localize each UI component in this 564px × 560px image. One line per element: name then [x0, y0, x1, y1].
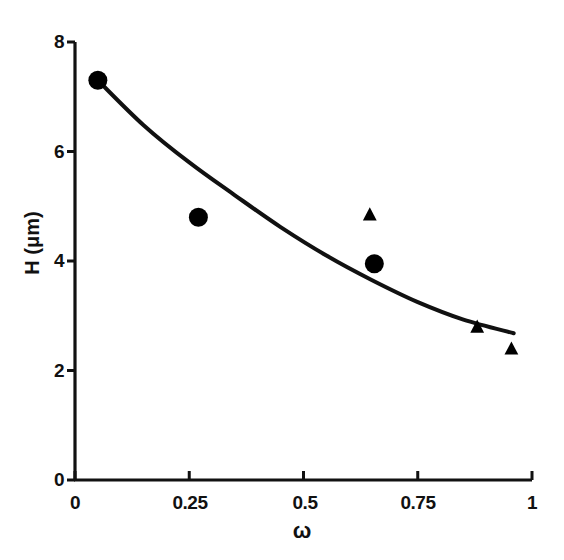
data-markers-triangle [363, 207, 518, 354]
y-tick-label-8: 8 [42, 31, 64, 53]
data-point-circle [88, 71, 107, 90]
chart-figure: 8 6 4 2 0 0 0.25 0.5 0.75 1 H (μm) ω [0, 0, 564, 560]
fit-curve [98, 80, 514, 333]
y-tick-label-4: 4 [42, 250, 64, 272]
x-tick-label-05: 0.5 [293, 492, 318, 514]
x-tick-label-1: 1 [527, 492, 537, 514]
x-axis-label: ω [293, 518, 312, 544]
data-point-triangle [363, 207, 377, 220]
plot-canvas [0, 0, 564, 560]
axis-lines [74, 42, 532, 481]
data-point-triangle [505, 342, 519, 355]
data-markers-circle [88, 71, 383, 273]
x-tick-label-025: 0.25 [173, 492, 208, 514]
data-point-circle [189, 208, 208, 227]
y-tick-label-2: 2 [42, 360, 64, 382]
x-tick-label-075: 0.75 [401, 492, 436, 514]
x-tick-label-0: 0 [70, 492, 80, 514]
y-axis-label: H (μm) [21, 211, 44, 274]
y-tick-label-0: 0 [42, 469, 64, 491]
y-tick-label-6: 6 [42, 141, 64, 163]
data-point-circle [365, 254, 384, 273]
